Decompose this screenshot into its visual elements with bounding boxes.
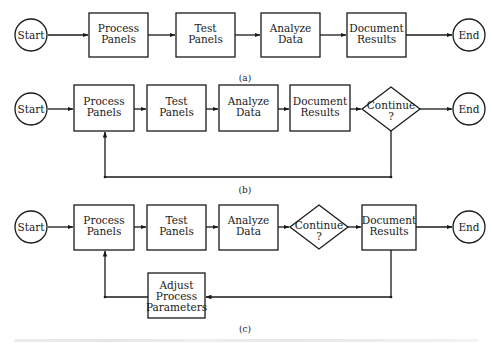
junction-dot (390, 176, 393, 179)
panel-b: Start Process Panels Test Panels Analyze… (15, 85, 485, 195)
process-panels-box: Process Panels (74, 205, 134, 250)
flowchart-figure: Start Process Panels Test Panels Analyze… (0, 0, 492, 346)
document-results-box: Document Results (290, 85, 350, 131)
continue-decision-diamond: Continue ? (362, 87, 420, 131)
process-panels-label-line2: Panels (101, 33, 136, 45)
test-panels-label-line2: Panels (188, 33, 223, 45)
start-node: Start (15, 211, 47, 243)
end-node: End (453, 211, 485, 243)
blurred-figure-caption-strip (14, 339, 478, 342)
document-results-label-line2: Results (300, 106, 339, 118)
caption-c: (c) (239, 324, 251, 334)
continue-decision-diamond: Continue ? (290, 205, 348, 249)
end-node: End (453, 93, 485, 125)
end-node: End (453, 19, 485, 51)
continue-question-mark: ? (388, 110, 394, 122)
analyze-data-label-line2: Data (236, 106, 261, 118)
test-panels-box: Test Panels (176, 13, 235, 57)
analyze-data-label-line2: Data (236, 225, 261, 237)
adjust-process-parameters-box: Adjust Process Parameters (146, 273, 207, 318)
test-panels-label-line2: Panels (159, 225, 194, 237)
analyze-data-box: Analyze Data (261, 13, 320, 57)
junction-dot (104, 176, 107, 179)
document-results-label-line2: Results (357, 33, 396, 45)
process-panels-box: Process Panels (89, 13, 148, 57)
junction-dot (104, 296, 107, 299)
panel-c: Start Process Panels Test Panels Analyze… (15, 205, 485, 334)
start-label: Start (18, 103, 46, 115)
caption-a: (a) (239, 73, 251, 83)
edge-adjust-to-process (105, 251, 148, 297)
start-node: Start (15, 93, 47, 125)
document-results-box: Document Results (362, 205, 417, 250)
document-results-label-line2: Results (369, 225, 408, 237)
document-results-box: Document Results (347, 13, 406, 57)
adjust-label-line3: Parameters (146, 301, 207, 313)
analyze-data-box: Analyze Data (219, 85, 278, 131)
analyze-data-box: Analyze Data (219, 205, 278, 250)
panel-a: Start Process Panels Test Panels Analyze… (15, 13, 485, 83)
start-label: Start (18, 221, 46, 233)
caption-b: (b) (239, 185, 252, 195)
test-panels-label-line2: Panels (159, 106, 194, 118)
end-label: End (458, 221, 479, 233)
continue-question-mark: ? (316, 230, 322, 242)
process-panels-label-line2: Panels (87, 225, 122, 237)
junction-dot (390, 296, 393, 299)
start-label: Start (18, 29, 46, 41)
end-label: End (458, 103, 479, 115)
process-panels-box: Process Panels (74, 85, 134, 131)
start-node: Start (15, 19, 47, 51)
test-panels-box: Test Panels (147, 205, 206, 250)
test-panels-box: Test Panels (147, 85, 206, 131)
edge-continue-loop-to-process (105, 131, 391, 177)
process-panels-label-line2: Panels (87, 106, 122, 118)
edge-document-loop-to-adjust (206, 250, 391, 297)
analyze-data-label-line2: Data (278, 33, 303, 45)
end-label: End (458, 29, 479, 41)
